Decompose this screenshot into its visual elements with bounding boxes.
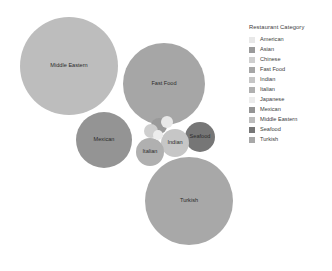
bubble-turkish[interactable] xyxy=(145,157,233,245)
legend-swatch-icon xyxy=(249,107,255,113)
legend-swatch-icon xyxy=(249,97,255,103)
legend-item-label: American xyxy=(260,37,284,43)
bubble-italian[interactable] xyxy=(136,138,164,166)
legend-item-label: Indian xyxy=(260,77,275,83)
bubble-chart-screenshot: Middle EasternFast FoodTurkishMexicanSea… xyxy=(0,0,332,271)
bubble-middle-eastern[interactable] xyxy=(20,17,118,115)
legend-item-list: AmericanAsianChineseFast FoodIndianItali… xyxy=(248,35,330,144)
bubble-layer xyxy=(20,17,233,245)
legend-swatch-icon xyxy=(249,57,255,63)
legend-item-american[interactable]: American xyxy=(248,35,330,44)
legend-swatch-icon xyxy=(249,77,255,83)
bubble-seafood[interactable] xyxy=(185,122,215,152)
legend-item-mexican[interactable]: Mexican xyxy=(248,105,330,114)
legend-item-label: Asian xyxy=(260,47,274,53)
legend-item-label: Italian xyxy=(260,87,275,93)
legend-title: Restaurant Category xyxy=(249,24,330,30)
legend-item-middle-eastern[interactable]: Middle Eastern xyxy=(248,115,330,124)
chart-plot-area: Middle EasternFast FoodTurkishMexicanSea… xyxy=(0,0,244,271)
bubble-indian[interactable] xyxy=(161,129,189,157)
legend-item-label: Seafood xyxy=(260,127,281,133)
legend-swatch-icon xyxy=(249,87,255,93)
legend-item-label: Chinese xyxy=(260,57,281,63)
legend-swatch-icon xyxy=(249,37,255,43)
legend-swatch-icon xyxy=(249,117,255,123)
legend-item-label: Japanese xyxy=(260,97,284,103)
legend-swatch-icon xyxy=(249,67,255,73)
legend: Restaurant Category AmericanAsianChinese… xyxy=(248,24,330,145)
bubble-svg: Middle EasternFast FoodTurkishMexicanSea… xyxy=(0,0,244,271)
legend-item-italian[interactable]: Italian xyxy=(248,85,330,94)
bubble-fast-food[interactable] xyxy=(123,43,205,125)
legend-swatch-icon xyxy=(249,127,255,133)
legend-item-turkish[interactable]: Turkish xyxy=(248,135,330,144)
legend-item-asian[interactable]: Asian xyxy=(248,45,330,54)
bubble-japanese[interactable] xyxy=(153,130,163,140)
legend-item-label: Fast Food xyxy=(260,67,285,73)
bubble-american[interactable] xyxy=(161,116,173,128)
legend-item-label: Mexican xyxy=(260,107,281,113)
bubble-mexican[interactable] xyxy=(76,112,132,168)
legend-item-chinese[interactable]: Chinese xyxy=(248,55,330,64)
legend-item-label: Middle Eastern xyxy=(260,117,297,123)
legend-swatch-icon xyxy=(249,47,255,53)
legend-item-seafood[interactable]: Seafood xyxy=(248,125,330,134)
legend-swatch-icon xyxy=(249,137,255,143)
legend-item-japanese[interactable]: Japanese xyxy=(248,95,330,104)
legend-item-label: Turkish xyxy=(260,137,278,143)
legend-item-fast-food[interactable]: Fast Food xyxy=(248,65,330,74)
legend-item-indian[interactable]: Indian xyxy=(248,75,330,84)
